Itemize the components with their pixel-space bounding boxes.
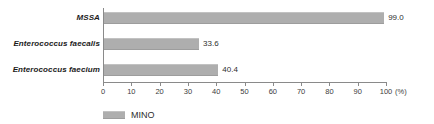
category-label-enterococcus-faecalis: Enterococcus faecalis bbox=[0, 38, 100, 50]
x-axis-unit-label: (%) bbox=[395, 87, 407, 96]
x-tick-0 bbox=[103, 83, 104, 86]
x-tick-60 bbox=[273, 83, 274, 86]
x-tick-90 bbox=[358, 83, 359, 86]
category-label-mssa: MSSA bbox=[0, 12, 100, 24]
x-tick-label-70: 70 bbox=[297, 87, 305, 96]
bar-mssa bbox=[104, 12, 384, 24]
bar-value-enterococcus-faecium: 40.4 bbox=[222, 64, 238, 76]
x-tick-10 bbox=[131, 83, 132, 86]
x-tick-30 bbox=[188, 83, 189, 86]
x-tick-label-20: 20 bbox=[155, 87, 163, 96]
x-tick-label-10: 10 bbox=[127, 87, 135, 96]
bar-enterococcus-faecalis bbox=[104, 38, 199, 50]
x-tick-50 bbox=[245, 83, 246, 86]
bar-value-enterococcus-faecalis: 33.6 bbox=[203, 38, 219, 50]
x-tick-100 bbox=[386, 83, 387, 86]
x-tick-80 bbox=[329, 83, 330, 86]
x-tick-70 bbox=[301, 83, 302, 86]
legend: MINO bbox=[103, 110, 155, 120]
x-tick-40 bbox=[216, 83, 217, 86]
plot-area: 99.0 33.6 40.4 bbox=[103, 8, 386, 82]
legend-swatch-mino bbox=[103, 111, 125, 119]
x-tick-label-40: 40 bbox=[212, 87, 220, 96]
bar-enterococcus-faecium bbox=[104, 64, 218, 76]
legend-label-mino: MINO bbox=[131, 110, 155, 120]
x-tick-label-0: 0 bbox=[101, 87, 105, 96]
x-tick-label-100: 100 bbox=[380, 87, 393, 96]
x-tick-label-60: 60 bbox=[269, 87, 277, 96]
bar-value-mssa: 99.0 bbox=[388, 12, 404, 24]
x-tick-label-80: 80 bbox=[325, 87, 333, 96]
category-label-enterococcus-faecium: Enterococcus faecium bbox=[0, 64, 100, 76]
bar-chart: MSSA Enterococcus faecalis Enterococcus … bbox=[0, 0, 434, 124]
x-tick-label-90: 90 bbox=[354, 87, 362, 96]
x-tick-label-30: 30 bbox=[184, 87, 192, 96]
x-tick-label-50: 50 bbox=[240, 87, 248, 96]
x-tick-20 bbox=[160, 83, 161, 86]
